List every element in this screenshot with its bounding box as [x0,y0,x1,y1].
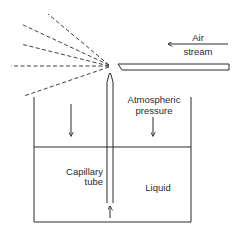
spray-line [48,14,109,65]
stream-label: stream [183,46,212,57]
capillary-tube [107,73,113,203]
tube-label: tube [85,176,104,187]
liquid-label: Liquid [145,182,170,193]
atmospheric-label: Atmospheric [128,94,181,105]
spray-lines [11,14,109,96]
spray-line [24,67,109,96]
air-tube [118,64,229,70]
spray-line [21,24,109,65]
pressure-label: pressure [136,105,173,116]
air-label: Air [192,32,204,43]
atomizer-diagram: Air stream Atmospheric pressure Capillar… [0,0,241,234]
spray-line [21,44,109,66]
